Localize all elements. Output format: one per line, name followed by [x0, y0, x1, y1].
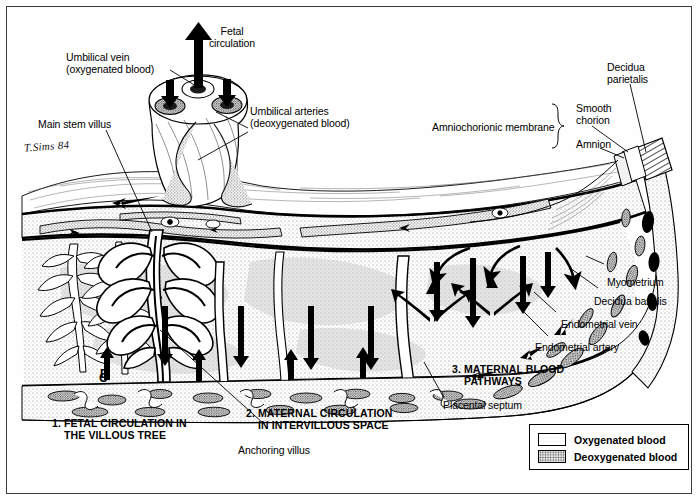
caption-two: 2. MATERNAL CIRCULATION IN INTERVILLOUS …: [246, 408, 392, 431]
label-umbilical-arteries: Umbilical arteries (deoxygenated blood): [250, 106, 350, 129]
caption-one: 1. FETAL CIRCULATION IN THE VILLOUS TREE: [52, 418, 187, 441]
label-endometrial-artery: Endometrial artery: [535, 342, 619, 354]
label-decidua-parietalis: Decidua parietalis: [607, 62, 648, 85]
legend-box: Oxygenated blood Deoxygenated blood: [529, 424, 689, 470]
label-amnion: Amnion: [576, 139, 611, 151]
label-myometrium: Myometrium: [607, 277, 664, 289]
legend-item-oxygenated: Oxygenated blood: [538, 432, 666, 447]
legend-item-deoxygenated: Deoxygenated blood: [538, 449, 677, 464]
caption-three: 3. MATERNAL BLOOD PATHWAYS: [452, 364, 564, 387]
label-smooth-chorion: Smooth chorion: [576, 103, 612, 126]
legend-swatch-deoxygenated: [538, 450, 566, 463]
legend-label-oxygenated: Oxygenated blood: [574, 434, 666, 446]
label-amniochorionic-membrane: Amniochorionic membrane: [432, 122, 555, 134]
label-main-stem-villus: Main stem villus: [38, 119, 111, 131]
label-anchoring-villus: Anchoring villus: [238, 445, 310, 457]
label-placental-septum: Placental septum: [443, 400, 522, 412]
legend-label-deoxygenated: Deoxygenated blood: [574, 451, 677, 463]
label-fetal-circulation: Fetal circulation: [187, 26, 277, 49]
label-decidua-basalis: Decidua basalis: [594, 296, 667, 308]
figure-canvas: Fetal circulation Umbilical vein (oxygen…: [0, 0, 699, 501]
legend-swatch-oxygenated: [538, 433, 566, 446]
label-umbilical-vein: Umbilical vein (oxygenated blood): [66, 52, 154, 75]
marker-d: D: [100, 369, 109, 381]
label-endometrial-vein: Endometrial vein: [561, 319, 638, 331]
